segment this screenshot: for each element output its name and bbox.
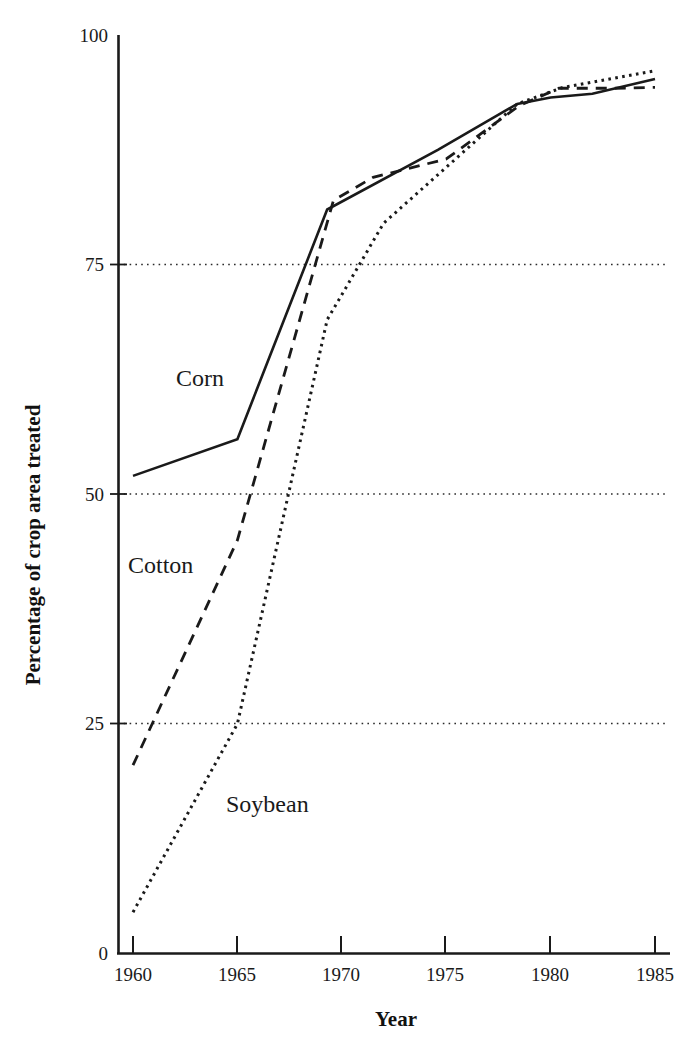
x-tick-label-1975: 1975: [426, 964, 464, 985]
series-label-corn: Corn: [176, 365, 224, 391]
chart-background: [0, 0, 698, 1053]
x-tick-label-1980: 1980: [531, 964, 569, 985]
x-axis-title: Year: [375, 1007, 417, 1031]
y-tick-label-0: 0: [99, 943, 109, 964]
x-tick-label-1970: 1970: [322, 964, 360, 985]
chart-figure: 100 75 50 25 0 1960 1965 1970 1975 1980 …: [0, 0, 698, 1053]
series-label-soybean: Soybean: [226, 791, 309, 817]
x-tick-label-1985: 1985: [636, 964, 674, 985]
x-tick-label-1960: 1960: [114, 964, 152, 985]
x-tick-label-1965: 1965: [218, 964, 256, 985]
series-label-cotton: Cotton: [128, 552, 193, 578]
y-tick-label-100: 100: [80, 25, 109, 46]
y-axis-title: Percentage of crop area treated: [21, 404, 45, 685]
y-tick-label-50: 50: [85, 484, 104, 505]
y-tick-label-75: 75: [85, 254, 104, 275]
line-chart-svg: 100 75 50 25 0 1960 1965 1970 1975 1980 …: [0, 0, 698, 1053]
y-tick-label-25: 25: [85, 713, 104, 734]
